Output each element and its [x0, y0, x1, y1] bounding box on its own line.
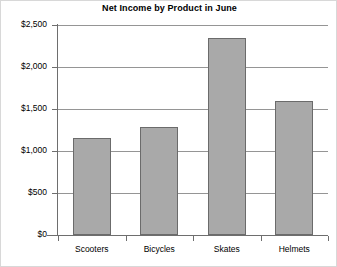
x-tick-label-scooters: Scooters — [58, 244, 126, 254]
plot-area — [58, 25, 328, 235]
x-tick-label-helmets: Helmets — [261, 244, 329, 254]
y-tick-label: $1,000 — [1, 146, 47, 155]
y-tick-label: $2,000 — [1, 62, 47, 71]
bar-skates[interactable] — [208, 38, 246, 235]
bar-bicycles[interactable] — [140, 127, 178, 235]
y-tick-label: $2,500 — [1, 20, 47, 29]
bar-chart: Net Income by Product in June $0$500$1,0… — [0, 0, 337, 267]
gridline — [58, 25, 328, 26]
x-tick-label-bicycles: Bicycles — [126, 244, 194, 254]
x-tick-mark — [261, 236, 262, 241]
x-tick-mark — [126, 236, 127, 241]
x-axis-line — [47, 235, 328, 236]
y-tick-label: $0 — [1, 230, 47, 239]
x-tick-mark — [193, 236, 194, 241]
x-tick-label-skates: Skates — [193, 244, 261, 254]
chart-title: Net Income by Product in June — [1, 3, 337, 13]
gridline — [58, 67, 328, 68]
x-tick-mark — [58, 236, 59, 241]
x-tick-mark — [328, 236, 329, 241]
y-tick-label: $500 — [1, 188, 47, 197]
bar-helmets[interactable] — [275, 101, 313, 235]
bar-scooters[interactable] — [73, 138, 111, 235]
y-tick-label: $1,500 — [1, 104, 47, 113]
